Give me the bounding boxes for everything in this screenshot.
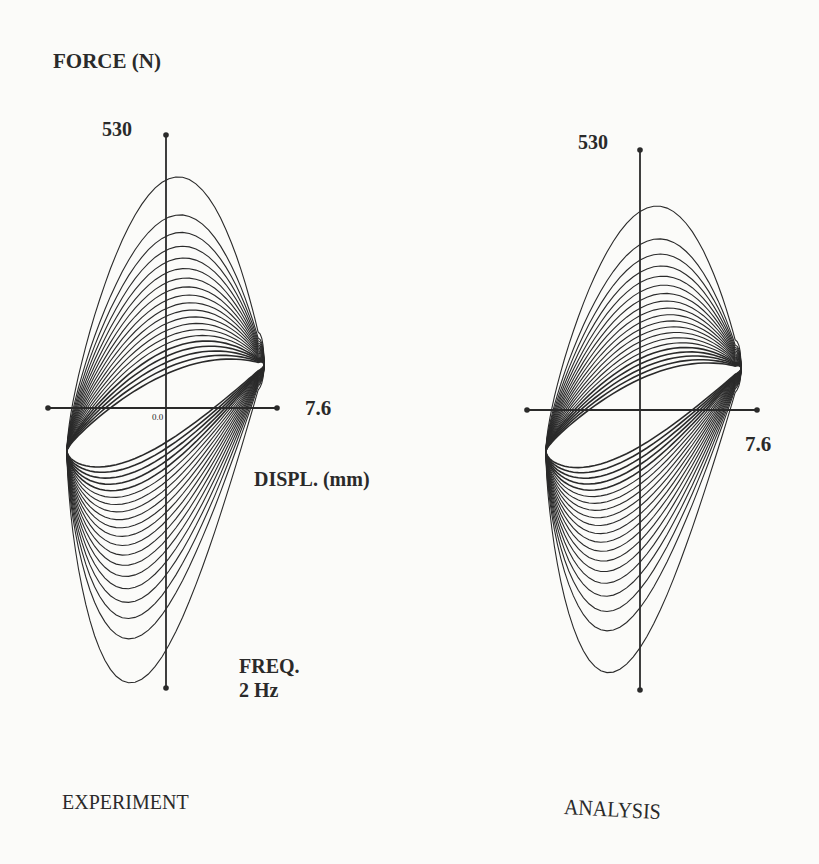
axis-end-marker xyxy=(163,685,169,691)
experiment-title: EXPERIMENT xyxy=(62,789,189,814)
experiment-y-max-label: 530 xyxy=(102,118,132,141)
analysis-title: ANALYSIS xyxy=(563,794,661,824)
experiment-x-max-label: 7.6 xyxy=(305,396,331,421)
hysteresis-loop xyxy=(546,315,741,534)
displacement-axis-label: DISPL. (mm) xyxy=(254,468,370,491)
analysis-y-max-label: 530 xyxy=(578,131,608,154)
axis-end-marker xyxy=(45,405,51,411)
origin-label: 0.0 xyxy=(152,412,163,422)
analysis-x-max-label: 7.6 xyxy=(745,432,771,457)
axis-end-marker xyxy=(163,132,169,138)
axis-end-marker xyxy=(754,407,760,413)
axis-end-marker xyxy=(637,147,643,153)
axis-end-marker xyxy=(274,405,280,411)
axis-end-marker xyxy=(637,687,643,693)
force-axis-label: FORCE (N) xyxy=(53,49,161,74)
frequency-label: FREQ. xyxy=(239,654,300,678)
frequency-value: 2 Hz xyxy=(239,678,300,702)
analysis-plot xyxy=(524,147,760,693)
axis-end-marker xyxy=(524,407,530,413)
frequency-annotation: FREQ. 2 Hz xyxy=(239,654,300,702)
